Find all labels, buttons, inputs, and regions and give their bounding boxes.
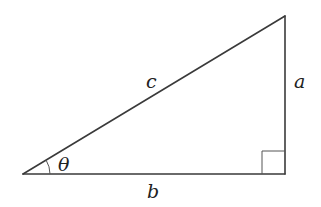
hypotenuse-edge <box>23 16 285 174</box>
right-triangle-diagram: c a b θ <box>0 0 321 207</box>
label-vertical-leg-a: a <box>294 70 305 92</box>
angle-theta-arc <box>46 160 50 174</box>
label-angle-theta: θ <box>58 153 70 175</box>
label-hypotenuse-c: c <box>146 70 157 92</box>
right-angle-marker <box>262 151 285 174</box>
label-horizontal-leg-b: b <box>147 180 159 202</box>
